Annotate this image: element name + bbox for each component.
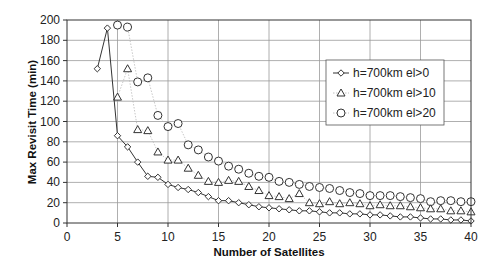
- circle-marker-icon: [194, 146, 202, 154]
- triangle-marker-icon: [316, 200, 324, 207]
- y-tick-label: 120: [40, 94, 60, 108]
- x-tick-label: 0: [64, 230, 71, 244]
- circle-marker-icon: [204, 153, 212, 161]
- diamond-marker-icon: [266, 205, 272, 211]
- diamond-marker-icon: [337, 210, 343, 216]
- y-axis-title: Max Revisit Time (min): [26, 60, 38, 185]
- diamond-marker-icon: [397, 214, 403, 220]
- circle-marker-icon: [366, 192, 374, 200]
- diamond-marker-icon: [205, 193, 211, 199]
- circle-marker-icon: [134, 78, 142, 86]
- triangle-marker-icon: [417, 204, 425, 211]
- diamond-marker-icon: [438, 216, 444, 222]
- circle-marker-icon: [346, 189, 354, 197]
- circle-marker-icon: [336, 187, 344, 195]
- triangle-marker-icon: [204, 177, 212, 184]
- circle-marker-icon: [447, 197, 455, 205]
- circle-marker-icon: [356, 190, 364, 198]
- y-tick-label: 0: [53, 216, 60, 230]
- diamond-marker-icon: [387, 213, 393, 219]
- circle-marker-icon: [255, 172, 263, 180]
- diamond-marker-icon: [256, 204, 262, 210]
- triangle-marker-icon: [346, 199, 354, 206]
- circle-marker-icon: [406, 194, 414, 202]
- circle-marker-icon: [337, 109, 345, 117]
- diamond-marker-icon: [104, 25, 110, 31]
- diamond-marker-icon: [155, 174, 161, 180]
- diamond-marker-icon: [195, 189, 201, 195]
- circle-marker-icon: [154, 111, 162, 119]
- triangle-marker-icon: [134, 126, 142, 133]
- diamond-marker-icon: [347, 211, 353, 217]
- x-tick-label: 20: [262, 230, 276, 244]
- y-tick-label: 180: [40, 33, 60, 47]
- circle-marker-icon: [184, 141, 192, 149]
- circle-marker-icon: [295, 180, 303, 188]
- diamond-marker-icon: [276, 206, 282, 212]
- triangle-marker-icon: [255, 187, 263, 194]
- x-tick-label: 35: [414, 230, 428, 244]
- triangle-marker-icon: [295, 190, 303, 197]
- diamond-marker-icon: [306, 208, 312, 214]
- diamond-marker-icon: [185, 186, 191, 192]
- x-tick-label: 30: [363, 230, 377, 244]
- circle-marker-icon: [144, 74, 152, 82]
- triangle-marker-icon: [437, 205, 445, 212]
- diamond-marker-icon: [316, 209, 322, 215]
- x-axis-title: Number of Satellites: [213, 246, 324, 258]
- diamond-marker-icon: [94, 66, 100, 72]
- diamond-marker-icon: [175, 184, 181, 190]
- circle-marker-icon: [245, 169, 253, 177]
- y-tick-label: 160: [40, 54, 60, 68]
- circle-marker-icon: [164, 123, 172, 131]
- diamond-marker-icon: [286, 207, 292, 213]
- x-tick-label: 5: [114, 230, 121, 244]
- circle-marker-icon: [174, 120, 182, 128]
- circle-marker-icon: [114, 21, 122, 29]
- circle-marker-icon: [417, 195, 425, 203]
- diamond-marker-icon: [377, 212, 383, 218]
- triangle-marker-icon: [154, 148, 162, 155]
- y-tick-label: 40: [47, 175, 61, 189]
- y-tick-label: 20: [47, 196, 61, 210]
- diamond-marker-icon: [367, 212, 373, 218]
- y-tick-label: 140: [40, 74, 60, 88]
- triangle-marker-icon: [184, 164, 192, 171]
- legend-label: h=700km el>0: [353, 66, 429, 80]
- legend-label: h=700km el>20: [353, 106, 436, 120]
- legend-label: h=700km el>10: [353, 86, 436, 100]
- triangle-marker-icon: [114, 93, 122, 100]
- diamond-marker-icon: [448, 217, 454, 223]
- circle-marker-icon: [275, 177, 283, 185]
- triangle-marker-icon: [164, 156, 172, 163]
- diamond-marker-icon: [236, 200, 242, 206]
- diamond-marker-icon: [357, 211, 363, 217]
- circle-marker-icon: [457, 198, 465, 206]
- circle-marker-icon: [215, 157, 223, 165]
- x-tick-label: 25: [313, 230, 327, 244]
- diamond-marker-icon: [458, 217, 464, 223]
- circle-marker-icon: [396, 193, 404, 201]
- circle-marker-icon: [305, 182, 313, 190]
- diamond-marker-icon: [145, 173, 151, 179]
- circle-marker-icon: [285, 178, 293, 186]
- diamond-marker-icon: [427, 216, 433, 222]
- x-tick-label: 40: [464, 230, 478, 244]
- triangle-marker-icon: [275, 193, 283, 200]
- y-axis-ticks: 020406080100120140160180200: [40, 13, 67, 230]
- circle-marker-icon: [326, 184, 334, 192]
- circle-marker-icon: [316, 183, 324, 191]
- triangle-marker-icon: [265, 192, 273, 199]
- diamond-marker-icon: [296, 208, 302, 214]
- triangle-marker-icon: [326, 198, 334, 205]
- triangle-marker-icon: [457, 207, 465, 214]
- circle-marker-icon: [265, 173, 273, 181]
- legend: h=700km el>0 h=700km el>10 h=700km el>20: [326, 60, 444, 125]
- x-tick-label: 15: [212, 230, 226, 244]
- x-axis-ticks: 0510152025303540: [64, 223, 478, 244]
- diamond-marker-icon: [407, 214, 413, 220]
- triangle-marker-icon: [245, 182, 253, 189]
- circle-marker-icon: [124, 23, 132, 31]
- y-tick-label: 200: [40, 13, 60, 27]
- diamond-marker-icon: [135, 159, 141, 165]
